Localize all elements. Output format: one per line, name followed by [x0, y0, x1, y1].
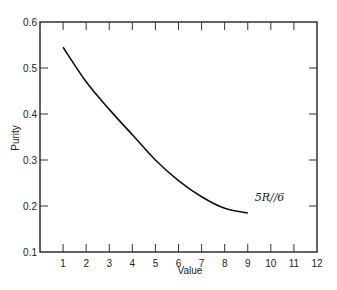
x-tick-label: 12	[311, 258, 323, 269]
series-line	[63, 47, 248, 213]
x-tick-label: 3	[106, 258, 112, 269]
x-tick-label: 8	[222, 258, 228, 269]
y-tick-label: 0.1	[23, 247, 37, 258]
x-axis-label: Value	[178, 265, 203, 276]
x-tick-label: 10	[265, 258, 277, 269]
y-tick-label: 0.5	[23, 63, 37, 74]
y-tick-label: 0.3	[23, 155, 37, 166]
x-tick-label: 4	[130, 258, 136, 269]
x-tick-label: 5	[153, 258, 159, 269]
purity-chart: 1234567891011120.10.20.30.40.50.6 Value …	[0, 0, 337, 290]
y-tick-label: 0.2	[23, 201, 37, 212]
y-tick-label: 0.4	[23, 109, 37, 120]
y-axis-label: Purity	[10, 125, 21, 151]
data-series	[63, 47, 248, 213]
y-tick-label: 0.6	[23, 17, 37, 28]
series-annotation: 5R//6	[255, 191, 285, 204]
x-tick-label: 11	[289, 258, 300, 269]
plot-frame	[40, 22, 317, 252]
x-tick-label: 2	[83, 258, 89, 269]
x-tick-label: 9	[245, 258, 251, 269]
x-tick-label: 1	[60, 258, 66, 269]
